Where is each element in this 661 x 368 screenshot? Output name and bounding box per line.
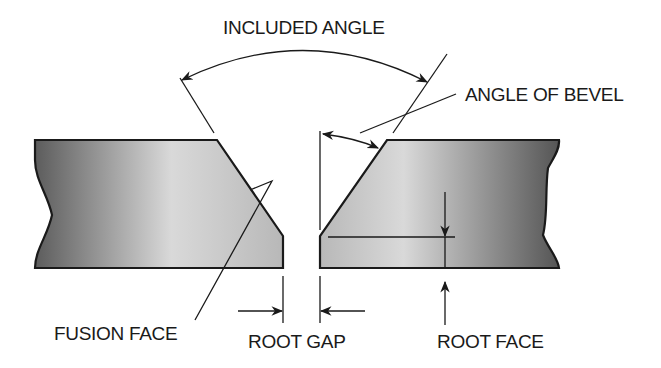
diagram-graphics bbox=[0, 0, 661, 368]
root-gap-label: ROOT GAP bbox=[248, 331, 346, 353]
left-plate bbox=[35, 140, 283, 268]
included-angle-right-extension bbox=[393, 54, 447, 133]
weld-joint-diagram: INCLUDED ANGLE ANGLE OF BEVEL FUSION FAC… bbox=[0, 0, 661, 368]
included-angle-arc bbox=[182, 50, 427, 82]
included-angle-label: INCLUDED ANGLE bbox=[223, 17, 385, 39]
right-plate bbox=[320, 140, 559, 268]
fusion-face-label: FUSION FACE bbox=[54, 323, 177, 345]
included-angle-left-extension bbox=[180, 78, 214, 133]
root-face-label: ROOT FACE bbox=[437, 331, 544, 353]
angle-of-bevel-label: ANGLE OF BEVEL bbox=[465, 84, 623, 106]
angle-of-bevel-arc bbox=[323, 134, 378, 148]
angle-of-bevel-leader bbox=[360, 94, 456, 133]
